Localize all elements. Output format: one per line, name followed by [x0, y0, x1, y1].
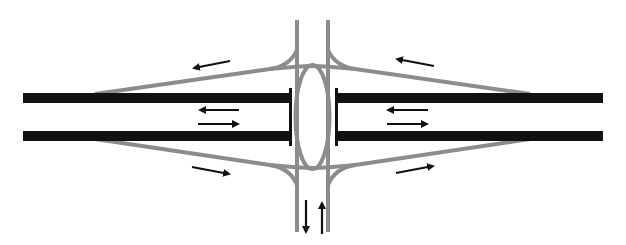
- interchange-diagram: [0, 0, 626, 245]
- ne-ramp-arrow-icon: [397, 59, 434, 66]
- freeway-west-endcap: [289, 88, 292, 146]
- nw-ramp-arrow-icon: [194, 61, 230, 68]
- bottom-connector: [270, 165, 355, 168]
- freeway: [23, 88, 603, 146]
- ramps: [95, 20, 530, 232]
- freeway-east-endcap: [335, 88, 338, 146]
- freeway-west-top: [23, 93, 291, 103]
- roundabout-ellipse: [296, 65, 330, 169]
- ramp-sw: [95, 139, 297, 232]
- top-connector: [270, 66, 355, 69]
- freeway-west-bottom: [23, 131, 291, 141]
- freeway-east-top: [335, 93, 603, 103]
- ramp-nw: [95, 22, 297, 94]
- traffic-arrows: [192, 59, 434, 234]
- sw-ramp-arrow-icon: [192, 167, 229, 174]
- se-ramp-arrow-icon: [396, 166, 433, 173]
- ramp-se: [328, 139, 530, 232]
- ramp-ne: [328, 22, 530, 94]
- freeway-east-bottom: [335, 131, 603, 141]
